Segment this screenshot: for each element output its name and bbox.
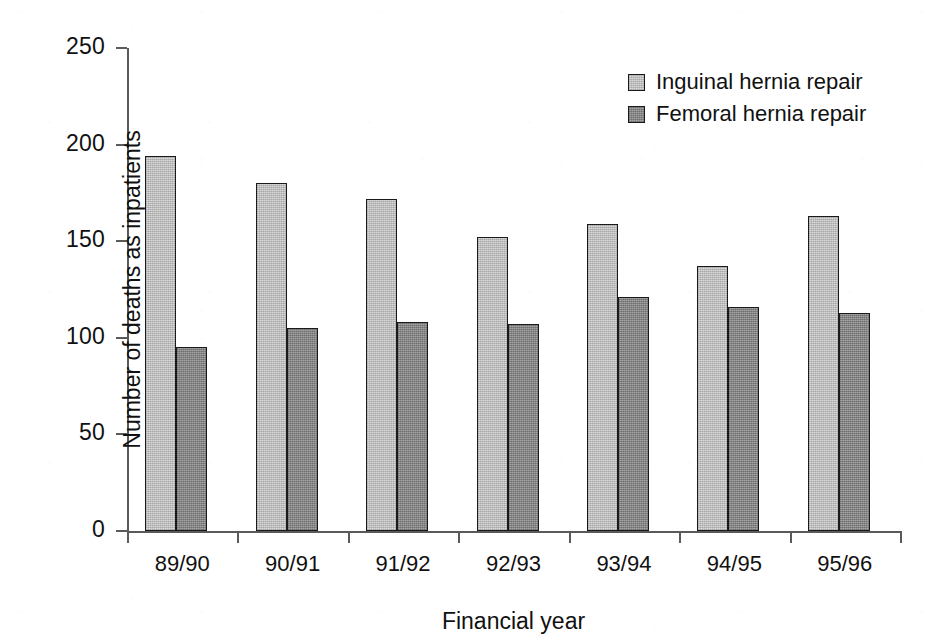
legend-label: Inguinal hernia repair [656, 69, 863, 95]
bar-90-91-series-0 [256, 183, 287, 531]
x-tick-mark [900, 531, 902, 543]
bar-93-94-series-0 [587, 224, 618, 531]
legend-label: Femoral hernia repair [656, 101, 866, 127]
x-tick-label: 95/96 [790, 551, 900, 577]
x-tick-label: 94/95 [679, 551, 789, 577]
legend-item-0: Inguinal hernia repair [628, 66, 866, 98]
y-tick-label: 150 [66, 226, 105, 253]
x-tick-mark [679, 531, 681, 543]
x-tick-mark [458, 531, 460, 543]
y-tick-label: 200 [66, 130, 105, 157]
x-axis-title: Financial year [127, 608, 900, 635]
x-tick-mark [127, 531, 129, 543]
bar-89-90-series-0 [145, 156, 176, 531]
y-tick-label: 100 [66, 323, 105, 350]
x-tick-mark [237, 531, 239, 543]
x-tick-label: 92/93 [458, 551, 568, 577]
x-tick-label: 93/94 [569, 551, 679, 577]
x-tick-mark [348, 531, 350, 543]
x-tick-mark [569, 531, 571, 543]
y-tick-label: 50 [79, 419, 105, 446]
chart-legend: Inguinal hernia repairFemoral hernia rep… [628, 66, 866, 130]
legend-swatch-icon [628, 74, 645, 91]
bar-91-92-series-0 [366, 199, 397, 531]
bar-92-93-series-1 [508, 324, 539, 531]
bar-94-95-series-1 [728, 307, 759, 531]
bar-92-93-series-0 [477, 237, 508, 531]
bar-94-95-series-0 [697, 266, 728, 531]
bar-95-96-series-0 [808, 216, 839, 531]
bar-89-90-series-1 [176, 347, 207, 531]
y-tick-label: 0 [92, 516, 105, 543]
legend-swatch-icon [628, 106, 645, 123]
y-axis-title: Number of deaths as inpatients [119, 48, 146, 531]
x-tick-label: 89/90 [127, 551, 237, 577]
x-tick-label: 90/91 [237, 551, 347, 577]
bar-91-92-series-1 [397, 322, 428, 531]
bar-93-94-series-1 [618, 297, 649, 531]
bar-95-96-series-1 [839, 313, 870, 531]
x-tick-label: 91/92 [348, 551, 458, 577]
bar-90-91-series-1 [287, 328, 318, 531]
y-tick-label: 250 [66, 33, 105, 60]
x-tick-mark [790, 531, 792, 543]
legend-item-1: Femoral hernia repair [628, 98, 866, 130]
x-axis-line [127, 531, 900, 533]
